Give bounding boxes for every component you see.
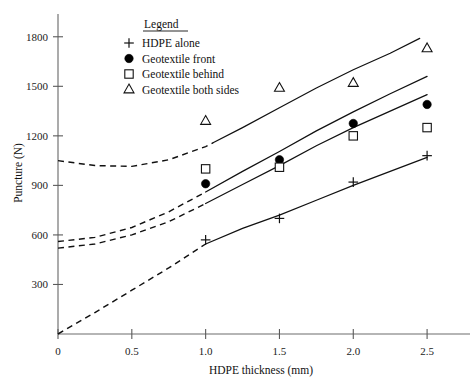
data-point-geotextile-both-sides — [201, 116, 211, 125]
x-tick-label: 0 — [55, 345, 61, 357]
data-point-geotextile-front — [349, 119, 357, 127]
curve-dashed-geotextile-front — [58, 204, 206, 249]
curve-solid-hdpe-alone — [206, 157, 427, 244]
legend-title: Legend — [144, 18, 179, 31]
curve-dashed-geotextile-both-sides — [58, 143, 213, 167]
data-point-geotextile-front — [423, 100, 431, 108]
legend-label-geotextile-behind: Geotextile behind — [142, 68, 224, 80]
legend-marker-open-triangle — [124, 84, 134, 93]
legend-label-hdpe-alone: HDPE alone — [142, 37, 200, 49]
x-tick-label: 2.5 — [420, 345, 434, 357]
y-axis-title: Puncture (N) — [12, 143, 25, 203]
legend-marker-open-square — [125, 70, 133, 78]
y-tick-label: 900 — [32, 179, 49, 191]
data-point-geotextile-both-sides — [422, 43, 432, 52]
legend-marker-filled-circle — [125, 54, 133, 62]
y-tick-label: 600 — [32, 229, 49, 241]
x-tick-label: 2.0 — [346, 345, 360, 357]
data-point-geotextile-behind — [349, 132, 357, 140]
curve-solid-geotextile-front — [206, 95, 427, 204]
data-point-geotextile-behind — [201, 165, 209, 173]
curve-solid-geotextile-both-sides — [213, 38, 420, 142]
legend-label-geotextile-both-sides: Geotextile both sides — [142, 84, 240, 96]
x-tick-label: 0.5 — [125, 345, 139, 357]
legend-label-geotextile-front: Geotextile front — [142, 53, 216, 65]
curve-dashed-geotextile-behind — [58, 192, 206, 242]
data-point-geotextile-both-sides — [274, 83, 284, 92]
x-tick-label: 1.0 — [199, 345, 213, 357]
y-tick-label: 300 — [32, 278, 49, 290]
y-tick-label: 1500 — [26, 80, 49, 92]
x-tick-label: 1.5 — [273, 345, 287, 357]
x-axis-title: HDPE thickness (mm) — [209, 364, 313, 377]
data-point-geotextile-behind — [423, 123, 431, 131]
puncture-resistance-chart: 30060090012001500180000.51.01.52.02.5HDP… — [0, 0, 476, 386]
curve-dashed-hdpe-alone — [58, 244, 206, 334]
data-point-geotextile-behind — [275, 163, 283, 171]
data-point-geotextile-both-sides — [348, 78, 358, 87]
chart-canvas: 30060090012001500180000.51.01.52.02.5HDP… — [0, 0, 476, 386]
y-tick-label: 1200 — [26, 130, 49, 142]
data-point-geotextile-front — [201, 180, 209, 188]
y-tick-label: 1800 — [26, 31, 49, 43]
